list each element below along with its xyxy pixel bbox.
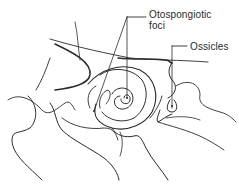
right-contour-upper [176,82,236,122]
focus-dot-left [93,110,95,112]
foci-pointer-left [94,17,127,111]
label-otospongiotic: Otospongiotic [149,10,211,20]
mid-lower-line [50,103,119,180]
label-ossicles: Ossicles [190,42,229,52]
focus-dot-center [126,97,128,99]
ear-anatomy-drawing [0,0,239,194]
cochlea-spiral [121,95,130,104]
small-loop-left [99,90,110,108]
thick-upper-contour [118,58,172,63]
left-bulge-thick [55,44,90,90]
focus-dot-ossicle [171,105,173,107]
right-mid-line [166,117,200,120]
otosclerosis-diagram: Otospongiotic foci Ossicles [0,0,239,194]
label-foci: foci [149,21,165,31]
cochlea-arc [100,69,146,120]
left-bulge-thin [36,58,50,90]
right-contour-lower [158,122,224,150]
left-oval [88,86,96,108]
left-wave-line [8,97,75,113]
left-lobe [12,96,42,180]
